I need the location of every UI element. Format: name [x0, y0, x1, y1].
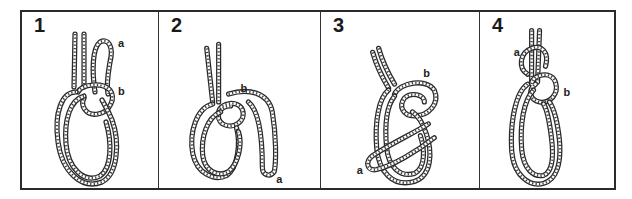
label-b: b	[563, 86, 570, 98]
rope-illustration-1: a b	[22, 12, 158, 188]
rope-illustration-4: a b	[480, 12, 614, 188]
step-panel-2: 2 b a	[158, 12, 320, 188]
label-b: b	[423, 67, 430, 79]
rope-illustration-3: b a	[321, 12, 479, 188]
label-a: a	[118, 37, 125, 49]
label-a: a	[514, 46, 521, 58]
knot-steps-figure: 1 a b	[20, 10, 616, 190]
step-panel-4: 4 a b	[479, 12, 614, 188]
label-a: a	[357, 164, 364, 176]
step-panel-3: 3 b a	[320, 12, 479, 188]
label-a: a	[276, 173, 283, 185]
step-panel-1: 1 a b	[22, 12, 158, 188]
label-b: b	[240, 82, 247, 94]
label-b: b	[118, 85, 125, 97]
rope-illustration-2: b a	[159, 12, 320, 188]
